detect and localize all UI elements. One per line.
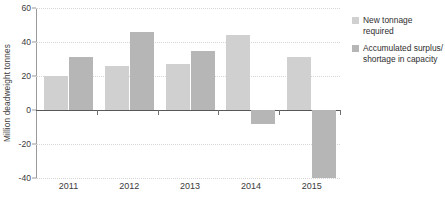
bar-2015-series-0[interactable] [287,57,311,110]
bar-2014-series-0[interactable] [226,35,250,110]
x-tick-label-2011: 2011 [59,181,78,191]
x-tick-label-2013: 2013 [180,181,200,191]
bar-group [226,8,275,178]
bar-2011-series-1[interactable] [69,57,93,110]
legend-swatch-icon [352,45,359,52]
bar-2013-series-1[interactable] [191,51,215,111]
x-tick-label-2014: 2014 [241,181,261,191]
x-tick-label-2015: 2015 [302,181,322,191]
legend-label: New tonnage required [363,15,445,36]
gridline [36,178,340,179]
y-tick-label: 20 [21,71,31,81]
bar-chart: Million deadweight tonnes 6040200-20-40 … [0,0,445,206]
y-tick-label: 0 [26,105,31,115]
x-tick-mark [218,110,219,115]
y-axis-title: Million deadweight tonnes [0,0,14,186]
x-tick-mark [279,110,280,115]
y-tick-label: -40 [19,173,31,183]
bar-2011-series-0[interactable] [44,76,68,110]
x-tick-mark [97,110,98,115]
bar-group [166,8,215,178]
bar-group [44,8,93,178]
y-tick-label: 60 [21,3,31,13]
y-tick-label: 40 [21,37,31,47]
bar-group [287,8,336,178]
bar-2012-series-1[interactable] [130,32,154,110]
legend-item-0[interactable]: New tonnage required [352,15,445,36]
legend-swatch-icon [352,17,359,24]
y-tick-label: -20 [19,139,31,149]
bar-2012-series-0[interactable] [105,66,129,110]
legend: New tonnage requiredAccumulated surplus/… [352,15,445,71]
bar-2015-series-1[interactable] [312,110,336,178]
bar-2014-series-1[interactable] [251,110,275,124]
bar-2013-series-0[interactable] [166,64,190,110]
y-axis-title-text: Million deadweight tonnes [2,44,12,142]
legend-item-1[interactable]: Accumulated surplus/ shortage in capacit… [352,43,445,64]
bars-layer [36,8,340,178]
bar-group [105,8,154,178]
x-tick-label-2012: 2012 [119,181,139,191]
legend-label: Accumulated surplus/ shortage in capacit… [363,43,443,64]
x-tick-mark [340,110,341,115]
x-tick-mark [158,110,159,115]
plot-area: 6040200-20-40 20112012201320142015 [36,8,340,178]
